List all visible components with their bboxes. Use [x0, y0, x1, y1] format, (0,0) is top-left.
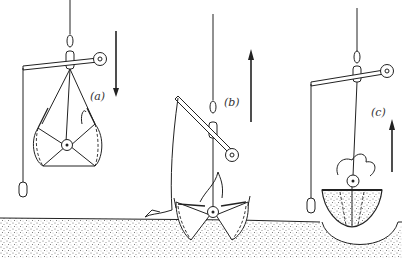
- left-jaw: [33, 128, 66, 166]
- panel-a-descending: (a): [19, 0, 119, 197]
- arrow-up-icon: [248, 49, 254, 60]
- panel-c-closed: (c): [307, 8, 395, 227]
- grab-sampler-diagram: (a) (b): [0, 0, 402, 258]
- arrow-down-icon: [113, 88, 119, 97]
- trigger-block: [66, 51, 74, 69]
- swivel-icon: [210, 101, 216, 113]
- trigger-arm: [311, 70, 384, 86]
- label-b: (b): [224, 96, 240, 109]
- messenger-weight: [19, 182, 27, 197]
- label-a: (a): [90, 90, 105, 103]
- panel-b-closing: (b): [145, 14, 254, 240]
- messenger-weight: [307, 198, 315, 213]
- trigger-arm: [23, 58, 98, 70]
- arrow-up-icon: [389, 119, 395, 130]
- swivel-icon: [354, 51, 360, 63]
- label-c: (c): [371, 106, 386, 119]
- swivel-icon: [67, 35, 73, 47]
